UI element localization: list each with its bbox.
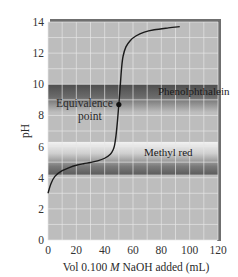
y-tick-label: 8 (38, 109, 44, 121)
phenolphthalein-label: Phenolphthalein (158, 85, 230, 97)
x-tick-label: 100 (181, 244, 199, 256)
y-tick-label: 6 (38, 141, 44, 153)
x-tick-label: 20 (71, 244, 83, 256)
y-tick-label: 4 (38, 172, 44, 184)
x-tick-label: 60 (127, 244, 139, 256)
y-tick-label: 14 (33, 16, 45, 28)
x-axis-label-part1: Vol 0.100 (63, 261, 110, 273)
equivalence-label-line1: Equivalence (56, 97, 113, 110)
y-axis-ticks: 02468101214 (33, 16, 45, 246)
x-tick-label: 80 (156, 244, 168, 256)
y-tick-label: 10 (33, 78, 45, 90)
x-tick-label: 120 (209, 244, 227, 256)
plot-frame (48, 19, 221, 241)
methyl-red-label: Methyl red (144, 146, 193, 158)
x-axis-label: Vol 0.100 M NaOH added (mL) (63, 261, 210, 274)
y-axis-label: pH (19, 124, 32, 138)
equivalence-point-marker (116, 102, 121, 107)
x-tick-label: 40 (99, 244, 111, 256)
x-axis-ticks: 020406080100120 (45, 244, 227, 256)
x-tick-label: 0 (45, 244, 51, 256)
equivalence-label-line2: point (78, 110, 102, 123)
y-tick-label: 2 (38, 203, 44, 215)
titration-chart: Phenolphthalein Methyl red Equivalence p… (0, 0, 238, 277)
x-axis-label-part2: NaOH added (mL) (120, 261, 210, 274)
y-tick-label: 0 (38, 234, 44, 246)
y-tick-label: 12 (33, 47, 45, 59)
